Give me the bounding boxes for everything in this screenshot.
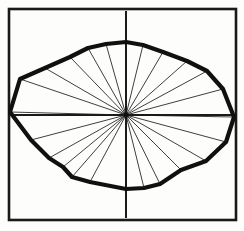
center-point [124,113,129,118]
figure-container [0,0,244,231]
radial-star-diagram [0,0,244,231]
